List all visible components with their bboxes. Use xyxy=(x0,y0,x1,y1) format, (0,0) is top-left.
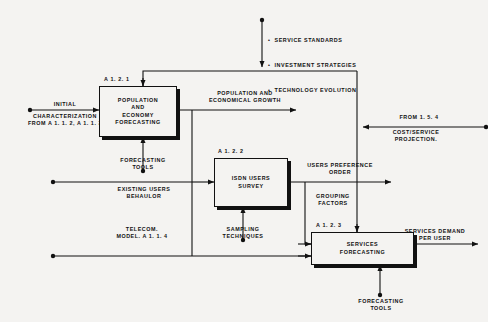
flow-label-initial: INITIAL xyxy=(24,101,106,108)
flow-label-telecom-model: TELECOM. MODEL. A 1. 1. 4 xyxy=(96,226,188,240)
process-box-isdn-users-survey[interactable]: ISDN USERS SURVEY xyxy=(214,158,288,207)
flow-label-from-154: FROM 1. 5. 4 xyxy=(380,114,458,121)
flow-label-sampling-techniques: SAMPLING TECHNIQUES xyxy=(204,226,282,240)
box-label-a121: POPULATION AND ECONOMY FORECASTING xyxy=(115,97,160,127)
flow-label-users-preference: USERS PREFERENCE ORDER xyxy=(292,162,388,176)
flow-label-grouping-factors: GROUPING FACTORS xyxy=(300,193,366,207)
flow-label-forecasting-tools-1: FORECASTING TOOLS xyxy=(104,157,182,171)
control-item-investment-strategies: INVESTMENT STRATEGIES xyxy=(268,61,356,69)
box-tag-a123: A 1. 2. 3 xyxy=(316,222,342,228)
process-box-services-forecasting[interactable]: SERVICES FORECASTING xyxy=(311,232,414,265)
control-item-service-standards: SERVICE STANDARDS xyxy=(268,36,356,44)
flow-label-forecasting-tools-2: FORECASTING TOOLS xyxy=(342,298,420,312)
flow-label-existing-users: EXISTING USERS BEHAULOR xyxy=(98,186,190,200)
box-face-a123: SERVICES FORECASTING xyxy=(311,232,414,265)
box-tag-a122: A 1. 2. 2 xyxy=(218,148,244,154)
box-label-a123: SERVICES FORECASTING xyxy=(340,241,385,256)
flow-label-population-growth: POPULATION AND ECONOMICAL GROWTH xyxy=(186,90,304,104)
box-face-a122: ISDN USERS SURVEY xyxy=(214,158,288,207)
box-label-a122: ISDN USERS SURVEY xyxy=(232,175,270,190)
flow-label-cost-service: COST/SERVICE PROJECTION. xyxy=(374,129,458,143)
box-face-a121: POPULATION AND ECONOMY FORECASTING xyxy=(99,86,177,137)
diagram-canvas: A 1. 2. 1 POPULATION AND ECONOMY FORECAS… xyxy=(0,0,488,322)
box-tag-a121: A 1. 2. 1 xyxy=(104,76,130,82)
process-box-population-economy-forecasting[interactable]: POPULATION AND ECONOMY FORECASTING xyxy=(99,86,177,137)
